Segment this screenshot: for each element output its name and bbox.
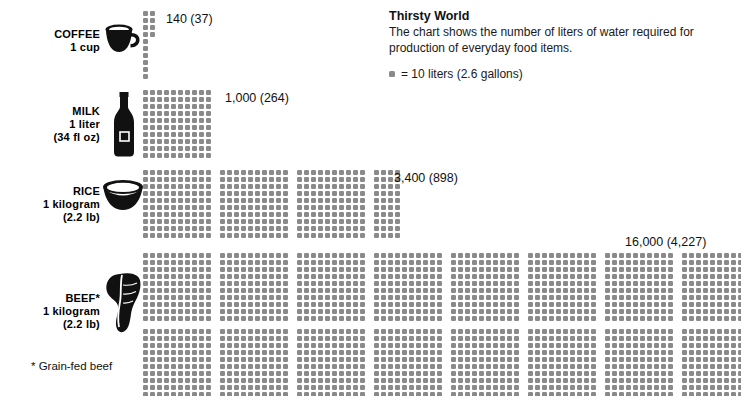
dot [528,357,533,362]
dot [199,118,204,123]
dot [178,153,183,158]
dot [395,205,400,210]
dot-column [731,329,736,396]
dot [353,385,358,390]
dot [577,392,582,396]
dot [423,343,428,348]
dot [241,385,246,390]
dot [409,378,414,383]
dot [150,104,155,109]
dot [248,274,253,279]
dot [591,371,596,376]
dot [486,392,491,396]
dot [549,260,554,265]
dot [682,343,687,348]
dot [507,343,512,348]
dot [199,309,204,314]
dot [654,378,659,383]
dot [325,309,330,314]
dot [374,350,379,355]
dot [402,343,407,348]
dot-column [360,329,365,396]
dot [486,288,491,293]
dot [640,302,645,307]
dot-block-coffee [143,11,155,79]
dot [199,125,204,130]
dot-column [423,329,428,396]
dot [661,336,666,341]
dot [507,350,512,355]
dot [612,329,617,334]
dot [535,357,540,362]
dot [612,281,617,286]
dot [143,11,148,16]
dot [157,274,162,279]
dot [577,274,582,279]
dot [192,274,197,279]
dot [542,288,547,293]
dot [542,350,547,355]
dot [206,153,211,158]
dot [262,205,267,210]
dot [185,219,190,224]
dot [710,267,715,272]
dot [710,385,715,390]
dot [178,329,183,334]
dot [619,316,624,321]
dot [556,267,561,272]
dot [248,177,253,182]
dot [437,316,442,321]
dot [304,295,309,300]
dot [731,329,736,334]
dot [668,274,673,279]
dot [353,233,358,238]
dot [717,371,722,376]
dot-column [577,253,582,321]
dot [241,343,246,348]
dot [605,329,610,334]
dot-column [164,253,169,321]
dot [227,177,232,182]
dot [199,153,204,158]
dot [199,260,204,265]
dot [276,309,281,314]
dot [374,329,379,334]
dot [346,212,351,217]
dot [325,378,330,383]
dot-block [220,170,288,238]
dot [332,343,337,348]
dot [430,316,435,321]
dot [143,316,148,321]
dot [143,146,148,151]
dot [605,378,610,383]
dot [633,364,638,369]
dot [234,385,239,390]
dot [563,281,568,286]
dot [255,350,260,355]
dot [479,392,484,396]
dot [682,260,687,265]
dot [178,288,183,293]
dot [269,329,274,334]
dot [360,343,365,348]
dot [416,350,421,355]
dot [150,385,155,390]
dot [304,385,309,390]
dot-column [192,253,197,321]
dot [731,302,736,307]
dot [192,350,197,355]
dot [143,74,148,79]
dot [332,350,337,355]
dot-column [528,253,533,321]
dot [619,253,624,258]
dot [346,205,351,210]
dot-block [451,329,519,396]
dot [241,253,246,258]
dot [409,350,414,355]
dot [325,184,330,189]
dot [276,233,281,238]
dot [626,385,631,390]
dot [479,281,484,286]
dot [199,219,204,224]
dot [577,364,582,369]
